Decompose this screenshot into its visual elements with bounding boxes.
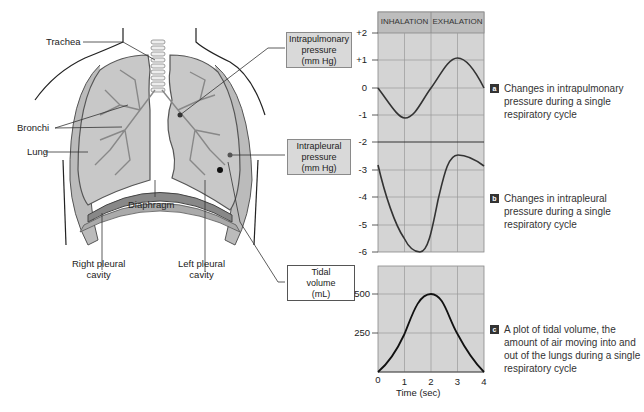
trachea xyxy=(151,40,165,92)
ytick: -6 xyxy=(345,246,367,257)
chart-c xyxy=(372,266,484,372)
label-left-pleural-cavity: Left pleural cavity xyxy=(178,258,225,280)
label-trachea: Trachea xyxy=(46,36,81,47)
label-right-pleural-cavity: Right pleural cavity xyxy=(72,258,125,280)
band-inhalation: INHALATION xyxy=(378,17,431,26)
ytick: -1 xyxy=(345,109,367,120)
ytick: 0 xyxy=(345,82,367,93)
xtick: 4 xyxy=(478,376,490,387)
xtick: 1 xyxy=(399,376,411,387)
callout-tidal-volume: Tidal volume (mL) xyxy=(287,265,355,301)
label-diaphragm: Diaphragm xyxy=(128,199,174,210)
chart-ab xyxy=(372,12,484,252)
xtick: 0 xyxy=(372,374,384,385)
ytick: -2 xyxy=(345,136,367,147)
xtick: 2 xyxy=(425,376,437,387)
xtick: 3 xyxy=(452,376,464,387)
ytick: 500 xyxy=(348,288,370,299)
callout-intrapleural-pressure: Intrapleural pressure (mm Hg) xyxy=(287,139,351,175)
label-lung: Lung xyxy=(27,146,48,157)
ytick: -3 xyxy=(345,164,367,175)
badge-a: a xyxy=(490,84,499,93)
ytick: +2 xyxy=(345,27,367,38)
caption-a: a Changes in intrapulmonary pressure dur… xyxy=(504,82,644,121)
caption-c: c A plot of tidal volume, the amount of … xyxy=(504,323,642,375)
ytick: +1 xyxy=(345,54,367,65)
ytick: 250 xyxy=(348,327,370,338)
callout-intrapulmonary-pressure: Intrapulmonary pressure (mm Hg) xyxy=(286,32,352,68)
label-bronchi: Bronchi xyxy=(17,122,49,133)
ytick: -4 xyxy=(345,191,367,202)
badge-b: b xyxy=(490,194,499,203)
caption-b: b Changes in intrapleural pressure durin… xyxy=(504,192,644,231)
x-axis-label: Time (sec) xyxy=(396,387,441,398)
ytick: -5 xyxy=(345,219,367,230)
badge-c: c xyxy=(490,325,499,334)
band-exhalation: EXHALATION xyxy=(431,17,484,26)
